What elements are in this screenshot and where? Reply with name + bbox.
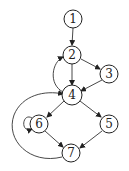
edge-5-7 [80, 131, 102, 148]
svg-text:2: 2 [68, 48, 76, 62]
svg-text:1: 1 [69, 12, 77, 26]
node-5: 5 [100, 115, 118, 133]
node-7: 7 [62, 144, 80, 162]
svg-text:7: 7 [67, 146, 75, 160]
svg-text:6: 6 [35, 117, 43, 131]
node-3: 3 [100, 65, 118, 83]
edges [12, 28, 102, 159]
edge-6-7 [45, 131, 63, 147]
node-2: 2 [63, 46, 81, 64]
edge-1-2 [72, 28, 73, 45]
edge-3-4 [81, 80, 102, 91]
edge-4-5 [80, 101, 101, 117]
flow-graph: 1 2 3 4 5 6 7 [0, 0, 129, 171]
node-4: 4 [62, 85, 82, 105]
svg-text:3: 3 [105, 67, 113, 81]
edge-4-6 [47, 101, 64, 117]
svg-text:5: 5 [105, 117, 113, 131]
edge-2-3 [81, 59, 100, 69]
edge-4-2 [53, 57, 63, 92]
svg-text:4: 4 [68, 88, 76, 102]
node-1: 1 [64, 10, 82, 28]
node-6: 6 [30, 115, 48, 133]
